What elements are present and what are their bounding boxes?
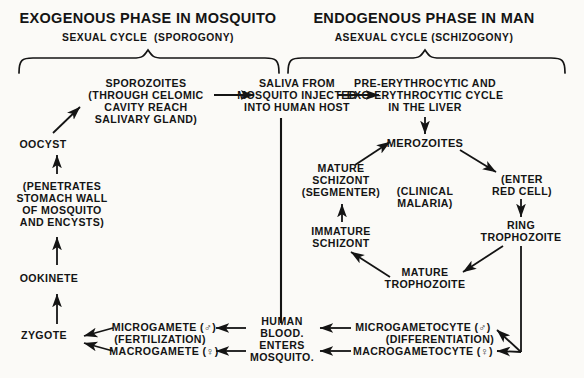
malaria-life-cycle-diagram: EXOGENOUS PHASE IN MOSQUITO SEXUAL CYCLE… (0, 0, 584, 378)
node-macrogamete: MACROGAMETE (♀) (109, 346, 218, 358)
node-penetrates-stomach-wall: (PENETRATES STOMACH WALL OF MOSQUITO AND… (16, 181, 107, 228)
arrow-junction-to-macrogametocyte (497, 351, 521, 352)
node-immature-schizont: IMMATURE SCHIZONT (311, 226, 371, 250)
node-mature-trophozoite: MATURE TROPHOZOITE (385, 267, 466, 291)
header-endogenous-subtitle: ASEXUAL CYCLE (SCHIZOGONY) (335, 32, 514, 43)
node-ring-trophozoite: RING TROPHOZOITE (481, 220, 562, 244)
node-clinical-malaria: (CLINICAL MALARIA) (397, 186, 454, 210)
node-enter-red-cell: (ENTER RED CELL) (492, 174, 552, 198)
node-mature-schizont: MATURE SCHIZONT (SEGMENTER) (302, 163, 381, 199)
arrow-merozoites-to-enter-red-cell (460, 150, 496, 172)
header-endogenous-title: ENDOGENOUS PHASE IN MAN (313, 10, 534, 26)
brace-endogenous (288, 50, 565, 73)
node-sporozoites: SPOROZOITES (THROUGH CELOMIC CAVITY REAC… (88, 78, 203, 125)
arrow-oocyst-to-sporozoites (53, 107, 80, 133)
header-exogenous-subtitle: SEXUAL CYCLE (SPOROGONY) (62, 32, 234, 43)
node-liver-cycle: PRE-ERYTHROCYTIC AND EXO-ERYTHROCYTIC CY… (347, 78, 504, 114)
node-ookinete: OOKINETE (20, 273, 79, 285)
node-human-blood-enters-mosquito: HUMAN BLOOD. ENTERS MOSQUITO. (250, 316, 314, 363)
node-zygote: ZYGOTE (21, 330, 67, 342)
node-saliva-injected: SALIVA FROM MOSQUITO INJECTED INTO HUMAN… (237, 78, 357, 114)
arrow-ring-to-mature-trophozoite (463, 246, 503, 272)
arrow-microgamete-to-zygote (84, 328, 113, 336)
brace-exogenous (19, 50, 279, 73)
node-macrogametocyte: MACROGAMETOCYTE (♀) (353, 346, 493, 358)
node-oocyst: OOCYST (19, 139, 66, 151)
header-exogenous-title: EXOGENOUS PHASE IN MOSQUITO (20, 10, 277, 26)
node-merozoites: MEROZOITES (387, 137, 464, 149)
arrow-junction-to-microgametocyte (497, 330, 521, 352)
